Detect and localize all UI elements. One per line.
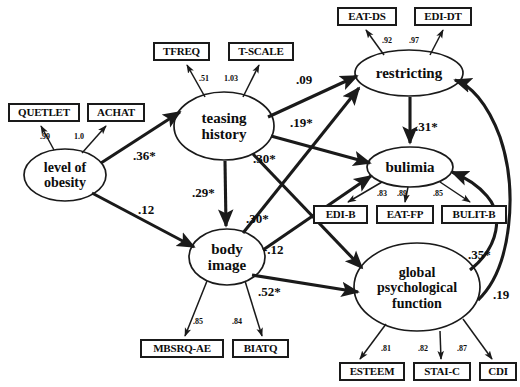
loading-value-body-mbsrqae: .85 (193, 318, 203, 326)
latent-label-line: obesity (44, 175, 86, 190)
latent-label-level-of-obesity: level of obesity (24, 153, 106, 197)
latent-label-line: bulimia (385, 159, 434, 175)
observed-box-staic: STAI-C (413, 362, 471, 381)
observed-box-eatfp: EAT-FP (376, 205, 434, 224)
loading-arrow-global-esteem (360, 324, 386, 359)
latent-label-line: body (211, 241, 243, 257)
observed-box-tfreq: TFREQ (153, 42, 210, 61)
loading-value-bulimia-eatfp: .89 (397, 190, 407, 198)
latent-label-restricting: restricting (355, 63, 463, 83)
latent-label-teasing-history: teasing history (174, 102, 274, 150)
loading-arrow-bulimia-bulitb (440, 182, 470, 202)
observed-box-quetlet: QUETLET (8, 103, 80, 122)
path-value-obesity-teasing: .36* (133, 149, 156, 162)
latent-label-body-image: body image (189, 234, 265, 280)
latent-label-line: psychological (377, 280, 457, 295)
observed-box-mbsrqae: MBSRQ-AE (140, 339, 224, 358)
path-arrow-teasing-restricting (268, 76, 357, 117)
loading-arrow-global-staic (440, 331, 441, 359)
loading-arrow-global-cdi (463, 319, 492, 359)
observed-box-biatq: BIATQ (232, 339, 289, 358)
path-arrow-teasing-body (225, 161, 226, 226)
loading-value-body-biatq: .84 (232, 318, 242, 326)
latent-label-line: function (392, 296, 442, 311)
loading-value-restricting-edidt: .97 (409, 37, 419, 45)
path-value-teasing-body: .29* (192, 186, 215, 199)
latent-label-line: global (399, 265, 436, 280)
observed-box-cdi: CDI (479, 362, 517, 381)
sem-path-diagram: level of obesity teasing history body im… (0, 0, 520, 387)
observed-box-tscale: T-SCALE (228, 42, 294, 61)
path-value-global-bulimia: .35* (468, 248, 491, 261)
path-value-obesity-body: .12 (138, 203, 154, 216)
loading-value-bulimia-edib: .83 (377, 190, 387, 198)
latent-label-line: history (202, 126, 247, 142)
loading-arrow-restricting-edidt (430, 30, 443, 55)
loading-value-global-esteem: .81 (381, 345, 391, 353)
loading-value-teasing-tscale: 1.03 (224, 75, 238, 83)
observed-box-bulitb: BULIT-B (441, 205, 507, 224)
observed-box-achat: ACHAT (87, 103, 145, 122)
observed-box-edidt: EDI-DT (414, 7, 472, 26)
loading-value-obesity-quetlet: .99 (40, 133, 50, 141)
path-value-teasing-restricting: .09 (296, 73, 312, 86)
path-value-body-global: .52* (258, 285, 281, 298)
path-value-teasing-bulimia: .19* (290, 116, 313, 129)
observed-box-eatds: EAT-DS (337, 7, 397, 26)
loading-value-global-staic: .82 (418, 345, 428, 353)
latent-label-line: level of (44, 160, 86, 175)
observed-box-esteem: ESTEEM (339, 362, 405, 381)
latent-label-line: teasing (202, 110, 247, 126)
loading-value-global-cdi: .87 (457, 345, 467, 353)
latent-label-line: restricting (376, 65, 442, 81)
path-value-body-bulimia: -.12 (263, 243, 284, 256)
latent-label-global-psychological-function: global psychological function (354, 262, 480, 314)
loading-arrow-teasing-tscale (243, 65, 259, 97)
path-value-global-restricting: .19 (493, 288, 509, 301)
path-arrow-teasing-bulimia (271, 136, 370, 163)
loading-arrow-obesity-achat (82, 126, 106, 153)
loading-arrow-body-mbsrqae (185, 281, 207, 336)
path-value-restricting-bulimia: .31* (415, 120, 438, 133)
loading-value-obesity-achat: 1.0 (74, 133, 84, 141)
observed-box-edib: EDI-B (313, 205, 368, 224)
loading-value-restricting-eatds: .92 (382, 37, 392, 45)
loading-value-bulimia-bulitb: .85 (433, 190, 443, 198)
path-value-teasing-global: .30* (253, 152, 276, 165)
loading-value-teasing-tfreq: .51 (199, 75, 209, 83)
latent-label-line: image (208, 257, 246, 273)
path-value-body-restricting: .30* (246, 212, 269, 225)
latent-label-bulimia: bulimia (367, 157, 453, 177)
